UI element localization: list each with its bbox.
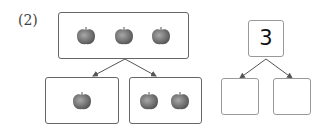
top-number: 3 [249,26,283,50]
apple-icon [151,26,171,46]
apple-icon [170,91,190,111]
apple-icon [76,26,96,46]
apple-icon [72,91,92,111]
apple-icon [139,91,159,111]
bottom-right-apple-box [129,77,202,124]
bottom-right-answer-box[interactable] [273,78,311,115]
top-number-box: 3 [248,20,284,57]
apple-icon [114,26,134,46]
bottom-left-answer-box[interactable] [221,78,259,115]
bottom-left-apple-box [45,77,119,124]
top-apple-box [58,12,189,59]
